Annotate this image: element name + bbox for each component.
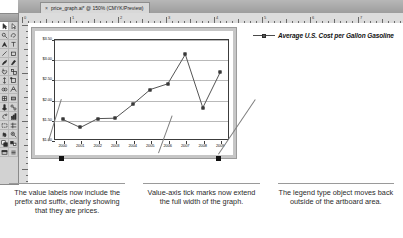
toolbox-panel[interactable]: [0, 13, 19, 185]
hand-tool[interactable]: [0, 130, 9, 139]
selection-handle-bottom-right[interactable]: [216, 156, 221, 161]
panel-options-button[interactable]: [9, 148, 18, 157]
caption-rule: [143, 183, 259, 184]
value-axis-tick: [52, 141, 55, 142]
magic-wand-tool[interactable]: [0, 31, 9, 40]
gradient-tool[interactable]: [9, 94, 18, 103]
caption-rule: [278, 183, 394, 184]
scale-tool[interactable]: [9, 67, 18, 76]
category-axis-label: 2008: [199, 144, 208, 148]
category-axis-label: 2006: [164, 144, 173, 148]
data-point-marker[interactable]: [114, 117, 117, 120]
graph-data-series[interactable]: [54, 39, 229, 140]
rotate-tool[interactable]: [0, 67, 9, 76]
width-tool[interactable]: [0, 76, 9, 85]
caption-text: The legend type object moves back outsid…: [278, 188, 394, 206]
window-title-bar: × price_graph.ai* @ 150% (CMYK/Preview): [18, 0, 403, 13]
artboard[interactable]: $3.50$3.00$2.50$2.00$1.50$1.002000200120…: [32, 28, 236, 158]
direct-selection-tool[interactable]: [9, 22, 18, 31]
category-axis-label: 2003: [111, 144, 120, 148]
category-axis-label: 2001: [76, 144, 85, 148]
ruler-number: 4: [216, 16, 218, 20]
blend-tool[interactable]: [9, 103, 18, 112]
value-axis-label: $1.50: [35, 118, 52, 122]
ruler-number: 3: [168, 16, 170, 20]
fill-stroke-swatch[interactable]: [0, 139, 9, 148]
column-graph-tool[interactable]: [9, 112, 18, 121]
pen-tool[interactable]: [0, 40, 9, 49]
slice-tool[interactable]: [9, 121, 18, 130]
pencil-tool[interactable]: [9, 58, 18, 67]
zoom-tool[interactable]: [9, 130, 18, 139]
data-point-marker[interactable]: [166, 82, 169, 85]
free-transform-tool[interactable]: [9, 76, 18, 85]
ruler-number: 0: [24, 16, 26, 20]
category-axis-label: 2000: [59, 144, 68, 148]
document-canvas[interactable]: $3.50$3.00$2.50$2.00$1.50$1.002000200120…: [28, 23, 403, 183]
ruler-number: 1: [72, 16, 74, 20]
value-axis-label: $3.50: [35, 37, 52, 41]
mesh-tool[interactable]: [0, 94, 9, 103]
screen-mode-button[interactable]: [0, 148, 9, 157]
document-tab-label: price_graph.ai* @ 150% (CMYK/Preview): [51, 6, 144, 11]
toolbox-tool-grid[interactable]: [0, 22, 18, 157]
caption-row: The value labels now include the prefix …: [0, 183, 403, 238]
data-point-marker[interactable]: [131, 103, 134, 106]
caption-text: The value labels now include the prefix …: [9, 188, 125, 216]
selection-handle-bottom-left[interactable]: [59, 156, 64, 161]
lasso-tool[interactable]: [9, 31, 18, 40]
eyedropper-tool[interactable]: [0, 103, 9, 112]
data-point-marker[interactable]: [184, 53, 187, 56]
data-point-marker[interactable]: [149, 88, 152, 91]
caption-legend-position: The legend type object moves back outsid…: [269, 183, 403, 238]
ruler-number: 7: [360, 16, 362, 20]
category-axis-label: 2005: [146, 144, 155, 148]
caption-tick-marks: Value-axis tick marks now extend the ful…: [134, 183, 268, 238]
value-axis-label: $3.00: [35, 57, 52, 61]
legend-marker-icon: [253, 35, 275, 36]
rectangle-tool[interactable]: [9, 49, 18, 58]
ruler-number: 6: [312, 16, 314, 20]
illustrator-window: × price_graph.ai* @ 150% (CMYK/Preview) …: [0, 0, 403, 238]
value-axis-label: $2.50: [35, 77, 52, 81]
data-point-marker[interactable]: [61, 118, 64, 121]
legend-label: Average U.S. Cost per Gallon Gasoline: [278, 32, 394, 39]
type-tool[interactable]: [9, 40, 18, 49]
color-mode-swatch[interactable]: [9, 139, 18, 148]
caption-value-labels: The value labels now include the prefix …: [0, 183, 134, 238]
selection-tool[interactable]: [0, 22, 9, 31]
symbol-sprayer-tool[interactable]: [0, 112, 9, 121]
paintbrush-tool[interactable]: [0, 58, 9, 67]
close-icon[interactable]: ×: [45, 6, 48, 11]
line-segment-tool[interactable]: [0, 49, 9, 58]
document-tab[interactable]: × price_graph.ai* @ 150% (CMYK/Preview): [40, 2, 150, 13]
artboard-tool[interactable]: [0, 121, 9, 130]
series-line: [54, 39, 229, 140]
shape-builder-tool[interactable]: [0, 85, 9, 94]
value-axis-label: $2.00: [35, 98, 52, 102]
caption-text: Value-axis tick marks now extend the ful…: [143, 188, 259, 206]
data-point-marker[interactable]: [96, 117, 99, 120]
category-axis-label: 2004: [129, 144, 138, 148]
data-point-marker[interactable]: [219, 71, 222, 74]
category-axis-label: 2007: [181, 144, 190, 148]
caption-rule: [9, 183, 125, 184]
ruler-number: 2: [120, 16, 122, 20]
data-point-marker[interactable]: [201, 106, 204, 109]
category-axis-label: 2002: [94, 144, 103, 148]
perspective-grid-tool[interactable]: [9, 85, 18, 94]
graph-legend[interactable]: Average U.S. Cost per Gallon Gasoline: [253, 32, 394, 39]
ruler-number: 5: [264, 16, 266, 20]
data-point-marker[interactable]: [79, 126, 82, 129]
toolbox-drag-handle[interactable]: [0, 14, 18, 22]
